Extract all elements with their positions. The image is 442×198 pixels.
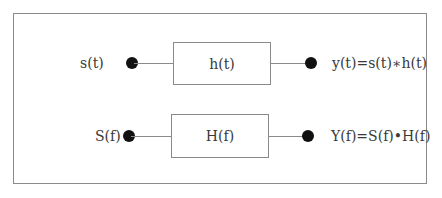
input-connector-time bbox=[134, 63, 173, 64]
input-label-frequency: S(f) bbox=[95, 128, 121, 144]
system-label-time: h(t) bbox=[209, 56, 235, 72]
output-node-time bbox=[305, 57, 317, 69]
system-block-frequency: H(f) bbox=[171, 114, 269, 158]
system-block-time: h(t) bbox=[173, 42, 271, 85]
diagram-frame bbox=[13, 13, 427, 184]
output-node-frequency bbox=[302, 130, 314, 142]
output-label-frequency: Y(f)=S(f)•H(f) bbox=[331, 128, 430, 144]
system-label-frequency: H(f) bbox=[206, 128, 234, 144]
output-label-time: y(t)=s(t)∗h(t) bbox=[332, 55, 427, 71]
input-label-time: s(t) bbox=[80, 55, 104, 71]
input-connector-frequency bbox=[131, 136, 171, 137]
